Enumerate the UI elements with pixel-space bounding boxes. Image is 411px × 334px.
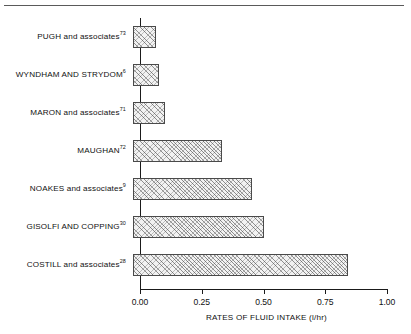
bar-track	[133, 94, 411, 132]
bar-category-name: GISOLFI AND COPPING	[26, 222, 119, 231]
bar-category-label: MARON and associates71	[0, 109, 133, 117]
bar-row: GISOLFI AND COPPING30	[0, 208, 411, 246]
x-axis-line	[140, 289, 387, 290]
bar-category-label: WYNDHAM AND STRYDOM6	[0, 71, 133, 79]
bar-row: WYNDHAM AND STRYDOM6	[0, 56, 411, 94]
figure: PUGH and associates73WYNDHAM AND STRYDOM…	[0, 0, 411, 334]
bar-row: COSTILL and associates28	[0, 246, 411, 284]
bar-category-name: NOAKES and associates	[30, 184, 123, 193]
bar-reference-superscript: 73	[120, 30, 126, 36]
bar-track	[133, 170, 411, 208]
x-axis-title: RATES OF FLUID INTAKE (l/hr)	[0, 313, 411, 322]
bar-row: NOAKES and associates9	[0, 170, 411, 208]
bar	[133, 216, 264, 238]
bar-reference-superscript: 28	[120, 258, 126, 264]
bar-category-label: MAUGHAN72	[0, 147, 133, 155]
x-axis-tick-label: 0.25	[193, 297, 210, 307]
top-divider-rule	[4, 5, 404, 6]
bar-category-name: WYNDHAM AND STRYDOM	[16, 70, 123, 79]
bar	[133, 64, 159, 86]
bar-category-name: PUGH and associates	[37, 32, 119, 41]
bar-reference-superscript: 9	[123, 182, 126, 188]
bar-track	[133, 246, 411, 284]
x-axis-title-text: RATES OF FLUID INTAKE (l/hr)	[206, 313, 327, 322]
bar-track	[133, 208, 411, 246]
x-axis-tick	[202, 289, 203, 294]
x-axis-tick	[387, 289, 388, 294]
x-axis-tick-label: 0.75	[317, 297, 334, 307]
bar-category-label: PUGH and associates73	[0, 33, 133, 41]
bar-track	[133, 18, 411, 56]
bar-track	[133, 56, 411, 94]
bar-category-label: NOAKES and associates9	[0, 185, 133, 193]
bar-row: PUGH and associates73	[0, 18, 411, 56]
bar	[133, 102, 165, 124]
bar	[133, 254, 348, 276]
bar-category-name: MARON and associates	[30, 108, 119, 117]
bar-reference-superscript: 30	[120, 220, 126, 226]
bar-reference-superscript: 72	[120, 144, 126, 150]
bar-reference-superscript: 6	[123, 68, 126, 74]
bar-category-label: COSTILL and associates28	[0, 261, 133, 269]
bar-row: MARON and associates71	[0, 94, 411, 132]
bar-track	[133, 132, 411, 170]
bar-category-name: COSTILL and associates	[27, 260, 120, 269]
plot-area: PUGH and associates73WYNDHAM AND STRYDOM…	[0, 14, 411, 289]
x-axis-tick-label: 0.50	[255, 297, 272, 307]
bar	[133, 178, 252, 200]
x-axis-tick-label: 1.00	[379, 297, 396, 307]
x-axis-tick-label: 0.00	[132, 297, 149, 307]
x-axis-tick	[140, 289, 141, 294]
x-axis-tick	[325, 289, 326, 294]
x-axis-tick	[264, 289, 265, 294]
bar	[133, 140, 222, 162]
bar-category-name: MAUGHAN	[77, 146, 119, 155]
bar-category-label: GISOLFI AND COPPING30	[0, 223, 133, 231]
bar-reference-superscript: 71	[120, 106, 126, 112]
bar	[133, 26, 156, 48]
bar-rows: PUGH and associates73WYNDHAM AND STRYDOM…	[0, 18, 411, 290]
bar-row: MAUGHAN72	[0, 132, 411, 170]
